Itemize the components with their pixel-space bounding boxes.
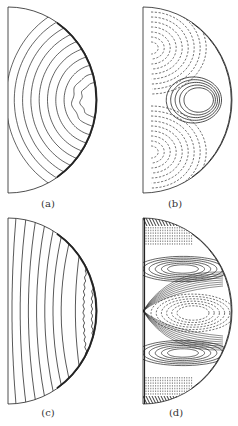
panel-b-label: (b) (155, 198, 195, 209)
panel-c-contour-plot (8, 213, 108, 409)
panel-c-label: (c) (28, 407, 68, 418)
panel-d-label: (d) (156, 407, 196, 418)
panel-a-contour-plot (6, 2, 97, 199)
panel-a-label: (a) (28, 198, 68, 209)
panel-d-contour-plot (137, 218, 235, 404)
panel-b-contour-plot (143, 2, 232, 198)
figure-canvas (0, 0, 238, 426)
